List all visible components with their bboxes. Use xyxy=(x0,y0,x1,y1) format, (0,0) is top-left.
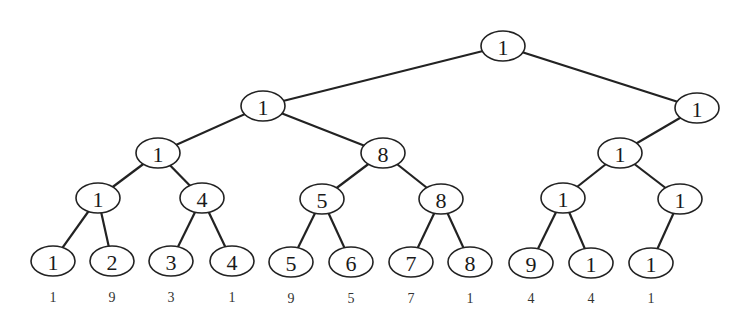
tree-node: 1 xyxy=(598,138,642,168)
leaf-label: 4 xyxy=(588,291,595,306)
tree-node: 1 xyxy=(675,93,719,123)
tree-edge xyxy=(263,46,503,106)
tree-node: 7 xyxy=(389,247,433,277)
tree-node: 1 xyxy=(629,248,673,278)
tree-node: 8 xyxy=(361,138,405,168)
tree-diagram: 11118114581112345678911 19319571441 xyxy=(0,0,742,323)
node-value: 1 xyxy=(48,250,59,275)
tree-node: 4 xyxy=(180,183,224,213)
node-value: 4 xyxy=(227,250,238,275)
node-value: 2 xyxy=(107,250,118,275)
node-value: 3 xyxy=(166,250,177,275)
node-value: 5 xyxy=(317,188,328,213)
tree-node: 8 xyxy=(448,247,492,277)
node-value: 4 xyxy=(197,187,208,212)
tree-node: 1 xyxy=(658,184,702,214)
node-value: 1 xyxy=(615,142,626,167)
node-value: 9 xyxy=(526,252,537,277)
node-value: 7 xyxy=(406,251,417,276)
leaf-label: 4 xyxy=(528,291,535,306)
tree-node: 3 xyxy=(149,246,193,276)
node-value: 1 xyxy=(153,142,164,167)
tree-node: 8 xyxy=(419,184,463,214)
tree-node: 9 xyxy=(509,248,553,278)
tree-node: 2 xyxy=(90,246,134,276)
node-value: 1 xyxy=(93,187,104,212)
node-value: 5 xyxy=(286,251,297,276)
leaf-label: 7 xyxy=(408,291,415,306)
node-value: 8 xyxy=(436,188,447,213)
tree-node: 1 xyxy=(541,183,585,213)
node-value: 1 xyxy=(258,95,269,120)
tree-nodes: 11118114581112345678911 xyxy=(31,31,719,278)
leaf-label: 9 xyxy=(109,290,116,305)
leaf-label: 1 xyxy=(648,291,655,306)
node-value: 1 xyxy=(692,97,703,122)
node-value: 6 xyxy=(346,251,357,276)
tree-node: 1 xyxy=(31,246,75,276)
leaf-label: 9 xyxy=(288,291,295,306)
node-value: 1 xyxy=(558,187,569,212)
leaf-label: 1 xyxy=(50,290,57,305)
node-value: 1 xyxy=(586,252,597,277)
node-value: 1 xyxy=(675,188,686,213)
tree-node: 1 xyxy=(136,138,180,168)
leaf-label: 1 xyxy=(229,290,236,305)
node-value: 8 xyxy=(465,251,476,276)
node-value: 1 xyxy=(646,252,657,277)
node-value: 1 xyxy=(498,35,509,60)
tree-node: 1 xyxy=(481,31,525,61)
tree-node: 1 xyxy=(569,248,613,278)
leaf-labels: 19319571441 xyxy=(50,290,655,306)
leaf-label: 1 xyxy=(467,291,474,306)
tree-node: 1 xyxy=(241,91,285,121)
tree-node: 5 xyxy=(269,247,313,277)
tree-edge xyxy=(503,46,697,108)
tree-node: 6 xyxy=(329,247,373,277)
tree-node: 4 xyxy=(210,246,254,276)
node-value: 8 xyxy=(378,142,389,167)
tree-node: 5 xyxy=(300,184,344,214)
tree-node: 1 xyxy=(76,183,120,213)
leaf-label: 5 xyxy=(348,291,355,306)
leaf-label: 3 xyxy=(168,290,175,305)
